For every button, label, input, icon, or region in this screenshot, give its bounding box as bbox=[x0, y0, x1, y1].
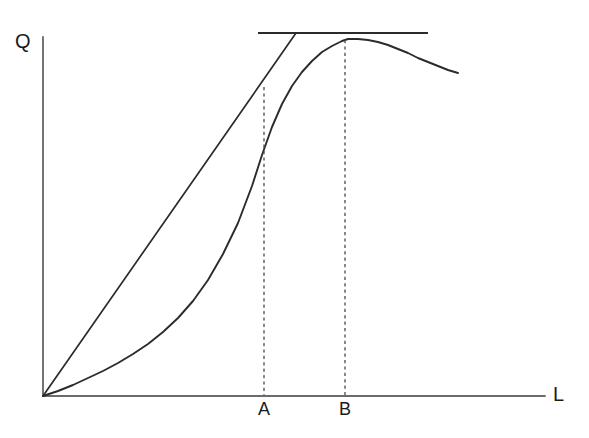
y-axis-label: Q bbox=[15, 31, 31, 51]
plot-canvas bbox=[0, 0, 589, 438]
total-product-curve-figure: Q L A B bbox=[0, 0, 589, 438]
total-product-curve bbox=[43, 39, 458, 396]
guide-lines-group bbox=[264, 40, 345, 395]
axes-group bbox=[43, 37, 545, 396]
x-axis-label: L bbox=[553, 384, 564, 404]
ray-from-origin bbox=[43, 33, 296, 396]
x-tick-label-a: A bbox=[254, 400, 274, 418]
data-group bbox=[43, 33, 458, 396]
x-tick-label-b: B bbox=[335, 400, 355, 418]
